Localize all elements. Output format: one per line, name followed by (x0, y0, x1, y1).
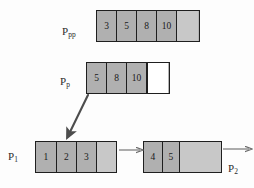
cell-pp-3 (147, 63, 168, 93)
label-pp: Pp (60, 76, 70, 89)
cell-p1-0: 1 (36, 142, 57, 172)
label-pp-sub: p (66, 80, 70, 89)
array-p1: 1 2 3 (35, 141, 117, 173)
label-p1-sub: 1 (14, 155, 18, 164)
diagram-canvas: Ppp 3 5 8 10 Pp 5 8 10 P1 1 2 3 P2 4 5 (0, 0, 254, 188)
label-p1: P1 (8, 151, 18, 164)
diagonal-insert-arrow (69, 95, 88, 134)
cell-ppp-0: 3 (97, 11, 117, 41)
cell-ppp-4 (177, 11, 198, 41)
cell-p1-1: 2 (57, 142, 78, 172)
array-pp: 5 8 10 (86, 62, 170, 94)
array-ppp: 3 5 8 10 (96, 10, 200, 42)
cell-p1-2: 3 (77, 142, 97, 172)
array-p2: 4 5 (143, 141, 222, 173)
label-ppp-sub: pp (68, 30, 76, 39)
label-p2: P2 (228, 163, 238, 176)
cell-pp-1: 8 (107, 63, 127, 93)
cell-p2-2 (180, 142, 221, 172)
label-ppp: Ppp (62, 26, 76, 39)
label-p2-sub: 2 (234, 167, 238, 176)
cell-pp-0: 5 (87, 63, 107, 93)
cell-p1-3 (97, 142, 117, 172)
cell-p2-0: 4 (144, 142, 163, 172)
cell-p2-1: 5 (163, 142, 181, 172)
cell-ppp-3: 10 (157, 11, 177, 41)
cell-pp-2: 10 (127, 63, 147, 93)
cell-ppp-2: 8 (137, 11, 157, 41)
cell-ppp-1: 5 (117, 11, 137, 41)
